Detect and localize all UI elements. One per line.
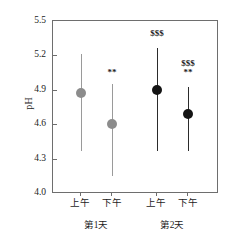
y-tick-mark [53,55,57,56]
x-axis-tick-labels: 上午 下午 上午 下午 [52,198,218,214]
group-label-day1: 第1天 [84,220,109,231]
group-label-day2: 第2天 [160,220,185,231]
error-bar [188,87,189,151]
x-tick-label-day2-afternoon: 下午 [178,198,198,209]
y-axis-tick-labels: 5.5 5.2 4.9 4.6 4.3 4.0 [18,0,46,251]
x-tick-label-day1-afternoon: 下午 [102,198,122,209]
y-tick-label: 4.9 [20,85,46,95]
x-tick-mark [156,192,157,196]
y-tick-label: 4.0 [20,188,46,198]
data-marker [183,109,193,119]
y-tick-label: 5.2 [20,50,46,60]
y-tick-label: 5.5 [20,16,46,26]
data-marker [152,85,162,95]
x-tick-label-day1-morning: 上午 [70,198,90,209]
x-tick-label-day2-morning: 上午 [146,198,166,209]
y-tick-mark [53,159,57,160]
data-marker [76,88,86,98]
y-tick-label: 4.3 [20,154,46,164]
x-axis-group-labels: 第1天 第2天 [52,220,218,236]
y-tick-mark [53,90,57,91]
x-tick-mark [80,192,81,196]
x-tick-mark [187,192,188,196]
significance-annotation: $$$ [150,29,164,39]
x-tick-mark [111,192,112,196]
error-bar [112,84,113,176]
plot-area: ** $$$ $$$ ** [52,20,218,192]
significance-annotation: ** [108,68,117,78]
y-tick-label: 4.6 [20,119,46,129]
error-bar [157,48,158,151]
significance-annotation: ** [184,68,193,78]
error-bar [81,54,82,151]
y-tick-mark [53,124,57,125]
data-marker [107,119,117,129]
chart-figure: pH 5.5 5.2 4.9 4.6 4.3 4.0 ** [0,0,231,251]
